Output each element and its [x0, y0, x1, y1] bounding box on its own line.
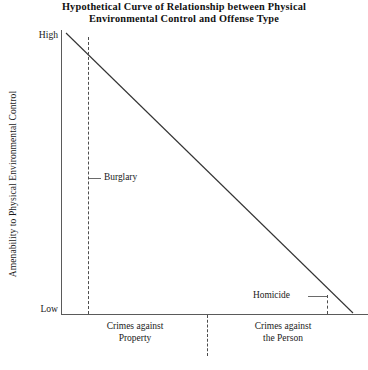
homicide-leader-line [308, 296, 327, 297]
burglary-annotation-label: Burglary [104, 172, 137, 182]
x-axis-category-person-line-1: Crimes against [208, 320, 358, 332]
x-axis-category-person-line-2: the Person [208, 332, 358, 344]
curve-line [0, 0, 368, 370]
chart-figure: Hypothetical Curve of Relationship betwe… [0, 0, 368, 370]
burglary-guide-line [88, 37, 89, 314]
x-axis-category-property-line-1: Crimes against [63, 320, 207, 332]
x-axis-category-person: Crimes against the Person [208, 320, 358, 345]
burglary-leader-line [89, 178, 101, 179]
homicide-guide-line [327, 295, 328, 314]
x-axis-category-property-line-2: Property [63, 332, 207, 344]
x-axis-category-property: Crimes against Property [63, 320, 207, 345]
homicide-annotation-label: Homicide [253, 290, 290, 300]
